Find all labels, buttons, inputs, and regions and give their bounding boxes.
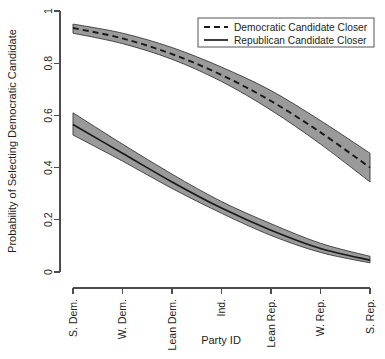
y-tick-label: 1 [42, 8, 54, 14]
x-tick-label: S. Rep. [364, 299, 376, 334]
x-tick-label: W. Rep. [314, 299, 326, 336]
x-axis-title: Party ID [201, 334, 241, 346]
y-tick-label: 0.6 [42, 108, 54, 123]
y-tick-label: 0.8 [42, 56, 54, 71]
x-tick-label: Lean Dem. [166, 299, 178, 350]
y-axis-title: Probability of Selecting Democratic Cand… [6, 29, 18, 253]
chart-legend: Democratic Candidate CloserRepublican Ca… [198, 18, 374, 47]
y-axis: 00.20.40.60.81 [42, 8, 60, 275]
probability-line-chart: 00.20.40.60.81 S. Dem.W. Dem.Lean Dem.In… [0, 0, 385, 359]
y-tick-label: 0.2 [42, 212, 54, 227]
y-tick-label: 0 [42, 269, 54, 275]
x-tick-label: W. Dem. [116, 299, 128, 339]
x-tick-label: Lean Rep. [265, 299, 277, 347]
y-tick-label: 0.4 [42, 160, 54, 175]
legend-label-1: Democratic Candidate Closer [234, 22, 368, 33]
legend-label-2: Republican Candidate Closer [234, 35, 367, 46]
x-tick-label: Ind. [215, 299, 227, 317]
confidence-bands-group [73, 24, 370, 263]
x-tick-label: S. Dem. [67, 299, 79, 337]
chart-container: 00.20.40.60.81 S. Dem.W. Dem.Lean Dem.In… [0, 0, 385, 359]
